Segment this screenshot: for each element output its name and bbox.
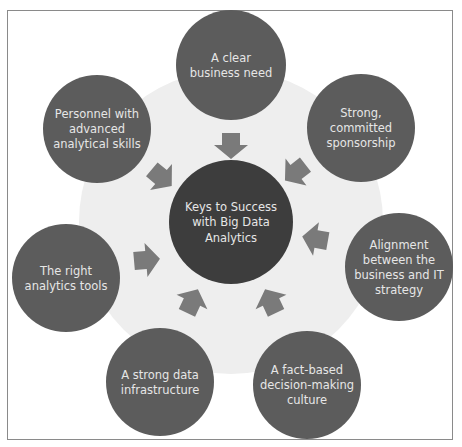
node-label-line: Personnel with	[55, 107, 139, 121]
node-alignment: Alignmentbetween thebusiness and ITstrat…	[345, 213, 453, 321]
node-label-line: decision-making	[260, 378, 354, 392]
node-data-infrastructure: A strong datainfrastructure	[106, 328, 214, 436]
node-label-line: Keys to Success	[185, 200, 277, 214]
center-node: Keys to Successwith Big DataAnalytics	[169, 160, 293, 284]
node-label-line: advanced	[69, 122, 125, 136]
node-label-line: A clear	[211, 51, 251, 65]
node-label-line: with Big Data	[192, 215, 270, 229]
node-label-line: between the	[363, 253, 435, 267]
node-label-line: The right	[39, 264, 93, 278]
node-label-line: committed	[330, 121, 392, 135]
node-analytics-tools: The rightanalytics tools	[12, 224, 120, 332]
node-label-line: culture	[287, 393, 327, 407]
node-label-line: A strong data	[121, 368, 199, 382]
node-clear-business-need: A clearbusiness need	[176, 10, 286, 120]
node-label-line: Analytics	[205, 231, 257, 245]
node-label-line: A fact-based	[271, 363, 343, 377]
node-analytical-skills: Personnel withadvancedanalytical skills	[43, 75, 151, 183]
node-sponsorship: Strong,committedsponsorship	[307, 74, 415, 182]
node-label-line: analytical skills	[53, 137, 141, 151]
diagram-canvas: A clearbusiness needStrong,committedspon…	[0, 0, 462, 447]
node-label-line: Alignment	[370, 238, 429, 252]
node-label-line: strategy	[375, 283, 423, 297]
node-label-line: business need	[190, 66, 273, 80]
node-label-line: infrastructure	[121, 383, 200, 397]
node-fact-based-culture: A fact-baseddecision-makingculture	[253, 331, 361, 439]
node-label-line: Strong,	[340, 106, 382, 120]
node-label-line: business and IT	[354, 268, 444, 282]
node-label-line: analytics tools	[25, 279, 108, 293]
node-label-line: sponsorship	[326, 136, 395, 150]
